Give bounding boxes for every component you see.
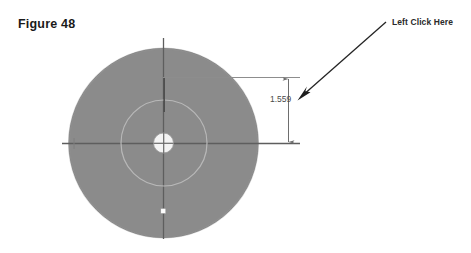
figure-screenshot: Figure 48 bbox=[0, 0, 471, 253]
sketch-point-marker[interactable] bbox=[161, 209, 166, 214]
arrow-down-left-icon bbox=[298, 86, 311, 100]
callout-label: Left Click Here bbox=[392, 17, 453, 27]
dimension-value-label[interactable]: 1.559 bbox=[270, 94, 291, 104]
callout-arrow-shaft bbox=[302, 22, 386, 96]
cad-drawing-canvas[interactable] bbox=[0, 0, 471, 253]
